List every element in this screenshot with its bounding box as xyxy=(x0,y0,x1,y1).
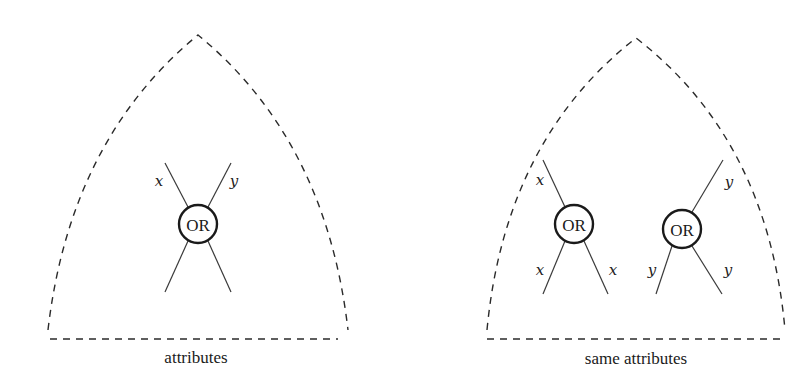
diagram-canvas: OR x y attributes OR x x x OR y y y same… xyxy=(0,0,811,385)
or-node-label: OR xyxy=(186,216,210,235)
edge-y-bottom-left xyxy=(656,246,672,294)
right-panel: OR x x x OR y y y same attributes xyxy=(487,38,785,368)
edge-y-top xyxy=(692,160,723,212)
edge-x-top xyxy=(543,160,565,207)
edge-label-x-top: x xyxy=(536,171,545,189)
edge-x-bottom-right xyxy=(584,241,608,294)
edge-label-x-bottom-left: x xyxy=(536,261,545,279)
edge-bottom-left xyxy=(165,241,188,292)
edge-top-left xyxy=(165,163,188,207)
caption-same-attributes: same attributes xyxy=(585,349,687,368)
edge-label-y: y xyxy=(229,172,239,190)
edge-top-right xyxy=(208,163,231,207)
edge-label-y-bottom-left: y xyxy=(647,261,657,279)
edge-bottom-right xyxy=(208,241,231,292)
right-boundary-dashed xyxy=(487,38,785,330)
left-boundary-dashed xyxy=(48,35,348,330)
edge-y-bottom-right xyxy=(692,246,722,294)
edge-label-x-bottom-right: x xyxy=(609,261,618,279)
left-panel: OR x y attributes xyxy=(48,35,348,367)
or-node-x-label: OR xyxy=(562,216,586,235)
edge-label-y-top: y xyxy=(724,173,734,191)
caption-attributes: attributes xyxy=(164,348,227,367)
edge-x-bottom-left xyxy=(543,241,565,294)
or-node-y-label: OR xyxy=(670,221,694,240)
edge-label-y-bottom-right: y xyxy=(723,261,733,279)
edge-label-x: x xyxy=(155,172,164,190)
